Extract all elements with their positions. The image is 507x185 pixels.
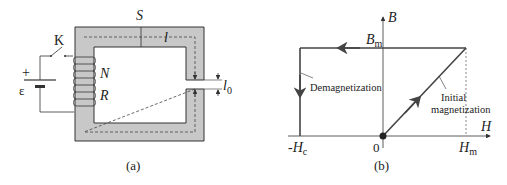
label-l: l — [164, 30, 168, 45]
origin-dot — [380, 133, 387, 140]
label-initial: Initial — [441, 92, 466, 103]
mean-path-dashed — [84, 37, 195, 132]
label-R: R — [99, 88, 109, 103]
label-Hc: -Hc — [288, 140, 308, 157]
magnetic-circuit: S l K N R + ε l0 (a) — [19, 8, 232, 173]
label-B-axis: B — [388, 10, 397, 25]
label-N: N — [99, 66, 110, 81]
label-plus: + — [22, 65, 30, 80]
caption-a: (a) — [126, 158, 140, 173]
label-origin: 0 — [373, 140, 380, 155]
label-demagnetization: Demagnetization — [310, 82, 382, 93]
label-l0: l0 — [223, 78, 232, 96]
label-H-axis: H — [480, 119, 492, 134]
label-emf: ε — [19, 83, 25, 98]
hysteresis-chart: B H 0 Bm Hm -Hc Demagnetization Initial … — [288, 10, 492, 173]
label-K: K — [54, 33, 64, 48]
label-S: S — [136, 8, 143, 23]
figure: S l K N R + ε l0 (a) B H 0 Bm — [0, 0, 507, 185]
label-magnetization: magnetization — [431, 104, 491, 115]
iron-core — [75, 27, 204, 141]
caption-b: (b) — [374, 158, 389, 173]
battery-minus-plate — [35, 85, 45, 88]
label-Hm: Hm — [458, 140, 477, 157]
label-Bm: Bm — [366, 32, 383, 49]
